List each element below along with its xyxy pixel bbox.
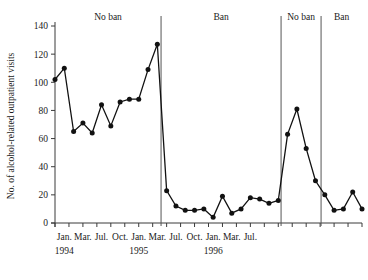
data-point — [332, 208, 337, 213]
data-point — [136, 97, 141, 102]
data-point — [183, 208, 188, 213]
x-axis-year-label: 1994 — [55, 246, 74, 256]
x-tick-label: Mar. — [74, 232, 92, 242]
y-tick-label: 100 — [34, 78, 49, 88]
data-point — [146, 67, 151, 72]
y-tick-label: 140 — [34, 21, 49, 31]
period-annotation-label: No ban — [287, 12, 315, 22]
data-point — [99, 102, 104, 107]
period-dividers — [161, 16, 321, 226]
y-tick-label: 0 — [43, 218, 48, 228]
data-point — [62, 66, 67, 71]
y-tick-label: 40 — [39, 162, 49, 172]
data-point — [90, 130, 95, 135]
data-point — [276, 198, 281, 203]
data-point — [192, 208, 197, 213]
data-point — [173, 204, 178, 209]
x-tick-label: Jul. — [169, 232, 182, 242]
data-point — [155, 42, 160, 47]
data-point — [304, 146, 309, 151]
data-point — [118, 99, 123, 104]
data-point — [53, 77, 58, 82]
data-point — [248, 195, 253, 200]
data-point — [229, 211, 234, 216]
data-point — [211, 215, 216, 220]
x-axis-year-label: 1996 — [204, 246, 223, 256]
period-annotation-label: Ban — [334, 12, 350, 22]
data-point — [350, 190, 355, 195]
alcohol-visits-line-chart: No. of alcohol-related outpatient visits… — [0, 0, 368, 280]
data-point — [108, 123, 113, 128]
period-annotation-label: Ban — [213, 12, 229, 22]
y-tick-label: 20 — [39, 190, 49, 200]
data-point — [71, 129, 76, 134]
x-tick-label: Jan. — [57, 232, 72, 242]
data-point — [294, 107, 299, 112]
data-point — [285, 132, 290, 137]
x-tick-label: Jan. — [206, 232, 221, 242]
data-point — [164, 188, 169, 193]
chart-container: No. of alcohol-related outpatient visits… — [0, 0, 368, 280]
y-tick-label: 120 — [34, 50, 49, 60]
data-point — [80, 121, 85, 126]
x-tick-label: Mar. — [148, 232, 166, 242]
data-point — [313, 178, 318, 183]
y-axis: 020406080100120140 — [34, 21, 55, 228]
data-point — [220, 194, 225, 199]
x-tick-label: Oct. — [186, 232, 202, 242]
data-point — [322, 192, 327, 197]
data-point — [360, 206, 365, 211]
period-annotation-label: No ban — [94, 12, 122, 22]
data-point — [266, 201, 271, 206]
x-tick-label: Jan. — [131, 232, 146, 242]
y-tick-label: 60 — [39, 134, 49, 144]
period-labels: No banBanNo banBan — [94, 12, 349, 22]
data-point — [239, 206, 244, 211]
data-point — [341, 206, 346, 211]
x-tick-label: Jul. — [244, 232, 257, 242]
data-series — [53, 42, 365, 220]
y-tick-label: 80 — [39, 106, 49, 116]
data-point — [127, 97, 132, 102]
x-axis-year-label: 1995 — [129, 246, 148, 256]
x-axis: Jan.1994Mar.Jul.Oct.Jan.1995Mar.Jul.Oct.… — [51, 223, 362, 256]
y-axis-title: No. of alcohol-related outpatient visits — [6, 52, 16, 199]
x-tick-label: Mar. — [223, 232, 241, 242]
data-point — [201, 206, 206, 211]
data-point — [257, 197, 262, 202]
x-tick-label: Jul. — [95, 232, 108, 242]
x-tick-label: Oct. — [112, 232, 128, 242]
